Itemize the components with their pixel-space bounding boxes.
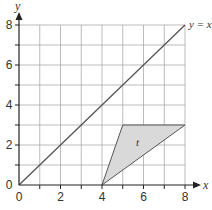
y-tick-label: 4 (6, 98, 13, 112)
y-tick-label: 0 (6, 178, 13, 192)
chart: 0 2 4 6 8 0 2 4 6 8 x y y = x t (0, 0, 212, 210)
line-label-y-equals-x: y = x (188, 18, 212, 30)
x-tick-label: 8 (182, 190, 189, 204)
x-axis-arrow-icon (193, 182, 201, 189)
y-tick-label: 8 (6, 18, 13, 32)
y-axis-label: y (14, 0, 21, 13)
y-tick-label: 2 (6, 138, 13, 152)
x-tick-label: 0 (16, 190, 23, 204)
y-axis-arrow-icon (16, 12, 23, 20)
x-axis-label: x (202, 178, 209, 192)
x-tick-label: 6 (140, 190, 147, 204)
y-tick-label: 6 (6, 58, 13, 72)
x-tick-label: 4 (99, 190, 106, 204)
x-tick-label: 2 (57, 190, 64, 204)
